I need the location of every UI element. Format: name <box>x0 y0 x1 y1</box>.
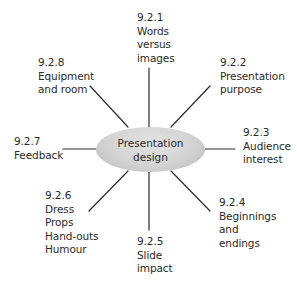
node-number: 9.2.5 <box>137 235 173 249</box>
node-label: Humour <box>45 243 98 257</box>
node-label: endings <box>219 237 276 251</box>
node-label: Audience <box>243 140 291 154</box>
node-number: 9.2.1 <box>137 11 175 25</box>
node-label: Slide <box>137 249 173 263</box>
node-9-2-1: 9.2.1 Words versus images <box>137 11 175 65</box>
node-9-2-3: 9.2.3 Audience interest <box>243 126 291 167</box>
node-label: Feedback <box>14 149 63 163</box>
node-9-2-4: 9.2.4 Beginnings and endings <box>219 196 276 250</box>
node-9-2-8: 9.2.8 Equipment and room <box>38 56 94 97</box>
node-9-2-6: 9.2.6 Dress Props Hand-outs Humour <box>45 189 98 257</box>
node-label: Beginnings <box>219 210 276 224</box>
connector-9-2-8 <box>90 86 128 127</box>
node-number: 9.2.3 <box>243 126 291 140</box>
node-label: Presentation <box>220 70 285 84</box>
node-label: images <box>137 52 175 66</box>
node-9-2-5: 9.2.5 Slide impact <box>137 235 173 276</box>
node-label: Props <box>45 216 98 230</box>
node-number: 9.2.6 <box>45 189 98 203</box>
node-label: Hand-outs <box>45 230 98 244</box>
central-node-line-2: design <box>133 150 168 164</box>
central-node: Presentation design <box>96 127 205 172</box>
node-label: and room <box>38 83 94 97</box>
node-9-2-2: 9.2.2 Presentation purpose <box>220 56 285 97</box>
node-number: 9.2.7 <box>14 135 63 149</box>
connector-9-2-4 <box>171 171 210 211</box>
node-number: 9.2.2 <box>220 56 285 70</box>
node-label: Dress <box>45 203 98 217</box>
node-number: 9.2.4 <box>219 196 276 210</box>
node-label: interest <box>243 153 291 167</box>
node-9-2-7: 9.2.7 Feedback <box>14 135 63 162</box>
central-node-line-1: Presentation <box>118 136 184 150</box>
node-label: versus <box>137 38 175 52</box>
node-label: Equipment <box>38 70 94 84</box>
node-label: and <box>219 223 276 237</box>
node-label: Words <box>137 25 175 39</box>
node-label: purpose <box>220 83 285 97</box>
node-number: 9.2.8 <box>38 56 94 70</box>
node-label: impact <box>137 262 173 276</box>
connector-9-2-2 <box>171 86 210 127</box>
